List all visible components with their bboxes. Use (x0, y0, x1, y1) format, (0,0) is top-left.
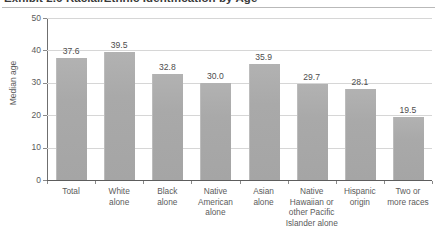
bar[interactable] (345, 89, 376, 180)
bar-value-label: 35.9 (240, 53, 288, 62)
y-axis-tick-label: 0 (13, 176, 41, 185)
y-axis-tick (43, 83, 47, 84)
x-axis-category-label-line: more races (380, 197, 436, 208)
x-axis-tick (288, 181, 289, 184)
x-axis-category-label-line: Islander alone (284, 218, 340, 229)
x-axis-category-label-line: Two or (380, 186, 436, 197)
bar-value-label: 37.6 (47, 47, 95, 56)
y-axis-tick-label: 30 (13, 78, 41, 87)
y-axis-tick (43, 18, 47, 19)
x-axis-tick (47, 181, 48, 184)
bar[interactable] (200, 83, 231, 180)
bar[interactable] (249, 64, 280, 180)
x-axis-tick (240, 181, 241, 184)
bar-value-label: 30.0 (191, 72, 239, 81)
title-divider (2, 7, 435, 8)
bar[interactable] (104, 52, 135, 180)
plot-area: 01020304050 37.639.532.830.035.929.728.1… (47, 18, 432, 180)
bar[interactable] (56, 58, 87, 180)
chart-title: Exhibit 2.6 Racial/Ethnic Identification… (4, 0, 434, 6)
y-axis-tick-label: 20 (13, 111, 41, 120)
x-axis-category-label: Two ormore races (380, 186, 436, 207)
bar[interactable] (297, 84, 328, 180)
y-axis-tick-label: 40 (13, 46, 41, 55)
x-axis-category-label-line: alone (187, 207, 243, 218)
x-axis-tick (191, 181, 192, 184)
y-axis-tick-label: 50 (13, 14, 41, 23)
y-axis-tick-label: 10 (13, 143, 41, 152)
bar[interactable] (393, 117, 424, 180)
y-axis-tick (43, 115, 47, 116)
x-axis-tick (95, 181, 96, 184)
bar-value-label: 28.1 (336, 78, 384, 87)
bar[interactable] (152, 74, 183, 180)
chart-figure: Exhibit 2.6 Racial/Ethnic Identification… (0, 0, 437, 235)
bar-value-label: 39.5 (95, 41, 143, 50)
y-axis-tick (43, 148, 47, 149)
x-axis-category-label-line: other Pacific (284, 207, 340, 218)
x-axis-tick (336, 181, 337, 184)
x-axis-tick (143, 181, 144, 184)
x-axis-tick (384, 181, 385, 184)
bar-value-label: 19.5 (384, 106, 432, 115)
bar-value-label: 29.7 (288, 73, 336, 82)
gridline (47, 18, 432, 19)
x-axis-tick (432, 181, 433, 184)
bar-value-label: 32.8 (143, 63, 191, 72)
